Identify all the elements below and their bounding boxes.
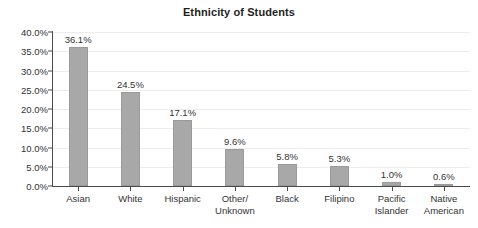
chart-title: Ethnicity of Students xyxy=(0,6,478,18)
bar-chart: Ethnicity of Students 40.0%35.0%30.0%25.… xyxy=(0,0,478,228)
bar xyxy=(278,164,297,186)
y-axis-tick-label: 25.0% xyxy=(4,84,48,95)
y-axis: 40.0%35.0%30.0%25.0%20.0%15.0%10.0%5.0%0… xyxy=(0,0,48,228)
y-axis-tick-label: 20.0% xyxy=(4,104,48,115)
bar-value-label: 9.6% xyxy=(224,136,246,147)
bar-value-label: 5.3% xyxy=(329,153,351,164)
bar xyxy=(121,92,140,186)
gridline xyxy=(52,109,470,110)
x-axis-tick-mark xyxy=(392,186,393,191)
y-axis-tick-label: 15.0% xyxy=(4,123,48,134)
gridline xyxy=(52,167,470,168)
bar-value-label: 36.1% xyxy=(65,34,92,45)
x-axis-category-label: Hispanic xyxy=(164,193,200,205)
y-axis-line xyxy=(52,31,53,187)
x-axis-category-label: White xyxy=(118,193,142,205)
x-axis-tick-mark xyxy=(235,186,236,191)
gridline xyxy=(52,32,470,33)
gridline xyxy=(52,128,470,129)
y-axis-tick-label: 0.0% xyxy=(4,181,48,192)
bar xyxy=(69,47,88,186)
y-axis-tick-label: 5.0% xyxy=(4,161,48,172)
bar xyxy=(225,149,244,186)
gridline xyxy=(52,90,470,91)
bar xyxy=(330,166,349,186)
bar-value-label: 5.8% xyxy=(276,151,298,162)
x-axis-tick-mark xyxy=(78,186,79,191)
x-axis-tick-mark xyxy=(130,186,131,191)
x-axis-tick-mark xyxy=(287,186,288,191)
bar-value-label: 17.1% xyxy=(169,107,196,118)
bar-value-label: 0.6% xyxy=(433,171,455,182)
plot-area xyxy=(52,32,470,186)
gridline xyxy=(52,51,470,52)
y-axis-tick-label: 40.0% xyxy=(4,27,48,38)
x-axis-tick-mark xyxy=(183,186,184,191)
x-axis-category-label: PacificIslander xyxy=(375,193,409,216)
x-axis-tick-mark xyxy=(339,186,340,191)
y-axis-tick-label: 10.0% xyxy=(4,142,48,153)
x-axis-category-label: Black xyxy=(276,193,299,205)
bar-value-label: 24.5% xyxy=(117,79,144,90)
bar xyxy=(173,120,192,186)
x-axis-category-label: Other/Unknown xyxy=(215,193,255,216)
x-axis-line xyxy=(52,186,470,187)
x-axis-tick-mark xyxy=(444,186,445,191)
x-axis-category-label: Filipino xyxy=(324,193,354,205)
gridline xyxy=(52,71,470,72)
y-axis-tick-label: 35.0% xyxy=(4,46,48,57)
bar-value-label: 1.0% xyxy=(381,169,403,180)
x-axis-category-label: Asian xyxy=(66,193,90,205)
gridline xyxy=(52,148,470,149)
x-axis-category-label: NativeAmerican xyxy=(424,193,464,216)
y-axis-tick-label: 30.0% xyxy=(4,65,48,76)
